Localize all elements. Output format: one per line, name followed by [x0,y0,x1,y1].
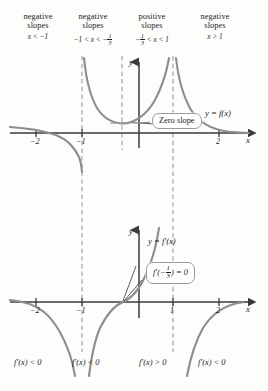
fprime-zero-callout: f′(−13) = 0 [146,262,195,284]
lower-graph [10,228,249,376]
fprime-zero-leader-2 [123,266,136,301]
lower-tick-2: 2 [216,306,220,315]
region-4-word2: slopes [184,21,246,30]
zero-slope-callout: Zero slope [152,113,202,129]
lower-curve-label: y = f′(x) [148,236,176,246]
region-3-word1: positive [122,12,182,21]
sign-label-1: f′(x) < 0 [14,358,41,367]
fraction-one-third: 13 [107,33,112,46]
lower-x-axis-label: x [246,304,250,314]
asymptote-lines [82,56,173,352]
region-2-word1: negative [62,12,124,21]
sign-label-3: f′(x) > 0 [139,358,166,367]
region-4-word1: negative [184,12,246,21]
upper-tick-2: 2 [216,137,220,146]
region-1-word1: negative [8,12,68,21]
derivative-sign-figure: negative slopes x < −1 negative slopes −… [0,0,268,391]
region-header-2: negative slopes −1 < x < −13 [62,12,124,46]
upper-y-axis-label: y [129,57,133,67]
region-header-1: negative slopes x < −1 [8,12,68,41]
lower-tick-1: 1 [170,306,174,315]
region-header-3: positive slopes −13 < x < 1 [122,12,182,46]
region-1-word2: slopes [8,21,68,30]
region-3-inequality: −13 < x < 1 [122,33,182,46]
lower-tick-neg2: −2 [30,306,39,315]
region-header-4: negative slopes x > 1 [184,12,246,41]
sign-label-4: f′(x) < 0 [198,358,225,367]
callout-prefix: f′(− [153,268,166,277]
lower-tick-neg1: −1 [76,306,85,315]
upper-tick-neg2: −2 [30,137,39,146]
lower-y-axis-label: y [129,226,133,236]
region-3-word2: slopes [122,21,182,30]
region-1-inequality: x < −1 [8,33,68,41]
region-4-inequality: x > 1 [184,33,246,41]
upper-tick-neg1: −1 [76,137,85,146]
upper-x-axis-label: x [246,135,250,145]
callout-suffix: ) = 0 [171,268,188,277]
sign-label-2: f′(x) < 0 [72,358,99,367]
figure-canvas [0,0,268,391]
region-2-word2: slopes [62,21,124,30]
region-2-inequality: −1 < x < −13 [62,33,124,46]
upper-curve-label: y = f(x) [205,108,231,118]
